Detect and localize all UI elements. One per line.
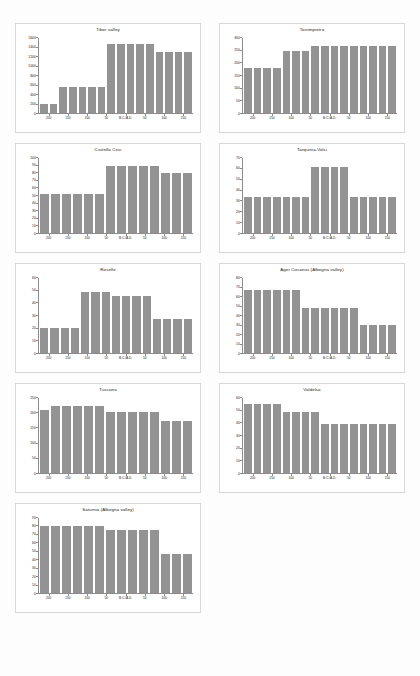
x-axis-tick-mark bbox=[349, 114, 350, 116]
y-axis-tick-mark bbox=[36, 551, 38, 552]
y-axis-tick-mark bbox=[36, 56, 38, 57]
x-axis-tick-label: 50 bbox=[105, 597, 109, 600]
x-axis-ticks: 20015010050B.C./A.D.50100150 bbox=[243, 354, 397, 368]
y-axis-tick-mark bbox=[240, 168, 242, 169]
y-axis-tick-mark bbox=[240, 190, 242, 191]
chart-grid: Tiber valley0200400600800100012001400160… bbox=[6, 18, 414, 618]
chart-title: Roselle bbox=[16, 267, 200, 273]
y-axis-tick-mark bbox=[240, 179, 242, 180]
bar bbox=[39, 328, 49, 353]
x-axis-tick-mark bbox=[387, 234, 388, 236]
x-axis-tick-mark bbox=[253, 474, 254, 476]
x-axis-tick-label: 150 bbox=[181, 357, 186, 360]
x-axis-tick-mark bbox=[126, 354, 127, 356]
x-axis-tick-mark bbox=[126, 234, 127, 236]
bar bbox=[160, 554, 171, 593]
x-axis-tick-label: 150 bbox=[269, 117, 274, 120]
x-axis-tick-mark bbox=[291, 474, 292, 476]
bar bbox=[182, 554, 193, 593]
x-axis-tick-mark bbox=[68, 114, 69, 116]
x-axis-tick-mark bbox=[272, 474, 273, 476]
bar bbox=[253, 197, 263, 233]
x-axis-tick-label: 50 bbox=[105, 237, 109, 240]
y-axis-tick-mark bbox=[36, 397, 38, 398]
x-axis-tick-label: 50 bbox=[309, 117, 313, 120]
x-axis-tick-label: 50 bbox=[105, 357, 109, 360]
x-axis-tick-label: 50 bbox=[143, 597, 147, 600]
bar bbox=[301, 51, 311, 114]
x-axis-tick-label: 100 bbox=[84, 237, 89, 240]
y-axis-tick-mark bbox=[240, 473, 242, 474]
x-axis-tick-label: 200 bbox=[250, 237, 255, 240]
x-axis-tick-mark bbox=[49, 354, 50, 356]
bar bbox=[310, 308, 320, 353]
y-axis-tick-mark bbox=[36, 225, 38, 226]
x-axis-tick-mark bbox=[387, 474, 388, 476]
x-axis-tick-mark bbox=[145, 474, 146, 476]
bar bbox=[282, 412, 292, 473]
bar bbox=[310, 167, 320, 233]
y-axis-tick-mark bbox=[240, 50, 242, 51]
x-axis-tick-mark bbox=[49, 234, 50, 236]
bar bbox=[378, 424, 388, 473]
y-axis-tick-mark bbox=[36, 180, 38, 181]
y-axis-tick-mark bbox=[36, 458, 38, 459]
bar bbox=[155, 52, 165, 113]
x-axis-tick-mark bbox=[368, 474, 369, 476]
x-axis-tick-label: 150 bbox=[385, 117, 390, 120]
y-axis-tick-mark bbox=[36, 473, 38, 474]
y-axis-tick-mark bbox=[36, 94, 38, 95]
y-axis-tick-mark bbox=[240, 344, 242, 345]
x-axis-tick-label: 200 bbox=[46, 117, 51, 120]
y-axis-tick-mark bbox=[240, 460, 242, 461]
bar bbox=[68, 87, 78, 113]
plot-area: 010203040506020015010050B.C./A.D.5010015… bbox=[38, 278, 193, 354]
bar bbox=[282, 290, 292, 353]
bar bbox=[152, 319, 162, 353]
x-axis-tick-label: 100 bbox=[365, 357, 370, 360]
bar bbox=[320, 424, 330, 473]
bar bbox=[359, 325, 369, 353]
bar bbox=[378, 197, 388, 233]
bar-series bbox=[243, 278, 397, 353]
x-axis-tick-label: 150 bbox=[181, 237, 186, 240]
bar bbox=[272, 68, 282, 113]
x-axis-tick-mark bbox=[368, 114, 369, 116]
x-axis-tick-label: 100 bbox=[365, 117, 370, 120]
x-axis-tick-label: B.C./A.D. bbox=[323, 237, 336, 240]
y-axis-tick-mark bbox=[36, 559, 38, 560]
y-axis-tick-mark bbox=[36, 157, 38, 158]
y-axis-tick-mark bbox=[36, 302, 38, 303]
bar bbox=[90, 292, 100, 353]
bar bbox=[49, 328, 59, 353]
bar bbox=[39, 104, 49, 113]
y-axis-tick-mark bbox=[240, 211, 242, 212]
bar-series bbox=[39, 38, 193, 113]
chart-frame: Tarquinia-Volci0102030405060702001501005… bbox=[219, 143, 405, 253]
x-axis-tick-label: 100 bbox=[288, 357, 293, 360]
bar bbox=[320, 308, 330, 353]
x-axis-ticks: 20015010050B.C./A.D.50100150 bbox=[243, 234, 397, 248]
x-axis-tick-mark bbox=[164, 474, 165, 476]
y-axis-tick-mark bbox=[240, 315, 242, 316]
bar bbox=[149, 412, 160, 473]
bar bbox=[183, 319, 193, 353]
bar bbox=[149, 530, 160, 593]
bar bbox=[368, 325, 378, 353]
x-axis-tick-label: 100 bbox=[161, 597, 166, 600]
bar bbox=[387, 46, 397, 114]
plot-area: 010203040506020015010050B.C./A.D.5010015… bbox=[242, 398, 397, 474]
bar bbox=[291, 290, 301, 353]
bar bbox=[291, 412, 301, 473]
x-axis-tick-mark bbox=[291, 354, 292, 356]
bar bbox=[171, 554, 182, 593]
bar bbox=[262, 68, 272, 113]
chart-title: Tiber valley bbox=[16, 27, 200, 33]
bar bbox=[339, 46, 349, 114]
chart-title: Civitella Cesi bbox=[16, 147, 200, 153]
x-axis-tick-label: 200 bbox=[46, 597, 51, 600]
plot-area: 01020304050607020015010050B.C./A.D.50100… bbox=[242, 158, 397, 234]
x-axis-tick-label: B.C./A.D. bbox=[119, 477, 132, 480]
x-axis-ticks: 20015010050B.C./A.D.50100150 bbox=[39, 354, 193, 368]
bar bbox=[378, 46, 388, 114]
